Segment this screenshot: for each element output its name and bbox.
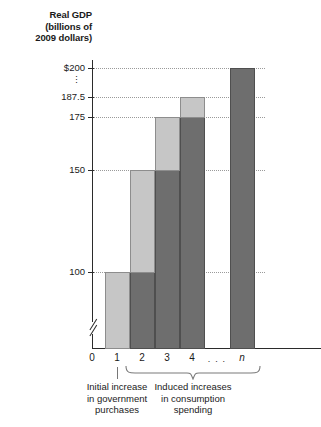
bar-period-2-dark: [130, 272, 155, 349]
x-tick-label-3: 3: [154, 352, 180, 364]
y-axis-title-line-1: Real GDP: [0, 9, 92, 21]
y-axis-title-line-3: 2009 dollars): [0, 32, 92, 44]
y-axis-title-line-2: (billions of: [0, 21, 92, 33]
y-axis-continuation-dots: ⋮: [41, 76, 81, 85]
y-tick-label-175: 175: [25, 112, 85, 122]
bar-period-4-dark: [180, 117, 205, 349]
annotation-tick-initial: [117, 367, 118, 379]
x-tick-label-1: 1: [104, 352, 130, 364]
plot-area: $200 ⋮ 187.5 175 150 100: [92, 60, 271, 348]
annotation-induced-line-1: Induced increases: [133, 381, 253, 393]
y-tick-label-1875: 187.5: [25, 92, 85, 102]
x-tick-label-2: 2: [129, 352, 155, 364]
annotation-induced-increases: Induced increases in consumption spendin…: [133, 381, 253, 416]
x-tick-label-4: 4: [179, 352, 205, 364]
y-tick-label-100: 100: [25, 267, 85, 277]
annotation-induced-line-2: in consumption: [133, 393, 253, 405]
bar-period-2-light: [130, 170, 155, 273]
bar-period-n-dark: [230, 68, 255, 349]
bar-period-3-light: [155, 117, 180, 171]
y-tick-label-150: 150: [25, 165, 85, 175]
bar-period-4-light: [180, 97, 205, 118]
x-tick-label-0: 0: [79, 352, 105, 364]
axis-break-icon: [86, 318, 101, 338]
y-axis-title: Real GDP (billions of 2009 dollars): [0, 9, 92, 44]
bar-period-1-light: [105, 272, 130, 349]
annotation-brace-induced: [125, 365, 261, 380]
y-axis-line: [92, 60, 93, 322]
annotation-induced-line-3: spending: [133, 404, 253, 416]
y-tick-label-200: $200: [25, 63, 85, 73]
gdp-multiplier-bar-chart: Real GDP (billions of 2009 dollars) $200…: [0, 0, 321, 427]
x-tick-label-ellipsis: . . .: [204, 353, 230, 365]
bar-period-3-dark: [155, 170, 180, 349]
x-tick-label-n: n: [229, 352, 255, 364]
